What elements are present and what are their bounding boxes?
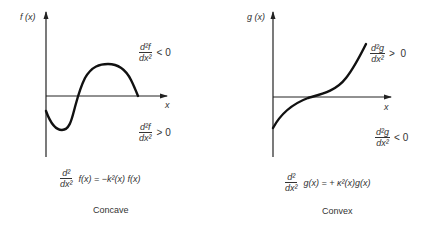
left-upper-condition: d²f dx² < 0 (138, 42, 171, 63)
left-eq-rhs: f(x) = −k²(x) f(x) (79, 174, 141, 184)
left-lower-numerator: d²f (139, 122, 152, 133)
left-y-axis-label: f (x) (20, 12, 36, 22)
right-y-axis-label: g (x) (247, 12, 265, 22)
left-upper-numerator: d²f (139, 42, 152, 53)
left-upper-denominator: dx² (138, 53, 153, 63)
left-eq-numerator: d² (60, 168, 72, 179)
left-upper-relation: < 0 (157, 47, 171, 58)
left-lower-relation: > 0 (157, 127, 171, 138)
left-equation: d² dx² f(x) = −k²(x) f(x) (58, 168, 141, 189)
right-upper-denominator: dx² (370, 54, 385, 64)
diagram-canvas (0, 0, 428, 228)
right-lower-condition: d²g dx² < 0 (375, 127, 408, 148)
right-eq-rhs: g(x) = + κ²(x)g(x) (304, 178, 371, 188)
right-caption: Convex (322, 206, 353, 216)
left-caption: Concave (93, 205, 129, 215)
concave-curve (46, 64, 138, 130)
right-plot (273, 12, 391, 157)
left-lower-denominator: dx² (138, 133, 153, 143)
right-lower-denominator: dx² (375, 138, 390, 148)
convex-curve (273, 44, 366, 128)
right-lower-relation: < 0 (394, 132, 408, 143)
right-x-axis-label: x (384, 102, 389, 112)
right-upper-condition: d²g dx² > 0 (370, 43, 406, 64)
left-x-axis-label: x (165, 100, 170, 110)
left-eq-denominator: dx² (58, 179, 75, 189)
right-eq-numerator: d² (285, 172, 297, 183)
right-eq-denominator: dx² (283, 183, 300, 193)
right-upper-numerator: d²g (370, 43, 385, 54)
right-equation: d² dx² g(x) = + κ²(x)g(x) (283, 172, 371, 193)
left-lower-condition: d²f dx² > 0 (138, 122, 171, 143)
right-lower-numerator: d²g (375, 127, 390, 138)
right-upper-relation: > 0 (389, 48, 406, 59)
